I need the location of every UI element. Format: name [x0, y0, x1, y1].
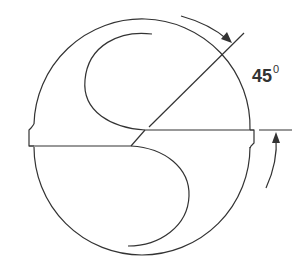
angle-label: 450 [252, 66, 279, 87]
degree-superscript: 0 [273, 63, 279, 75]
right-land-notch [250, 130, 254, 148]
left-land-notch [29, 124, 34, 146]
angle-value: 45 [252, 66, 272, 86]
lower-angle-arrow-arc [266, 137, 276, 188]
outer-circle-lower-arc [34, 147, 250, 255]
lower-arrowhead-icon [272, 132, 280, 143]
upper-angle-arrow-arc [181, 16, 228, 40]
upper-arrowhead-icon [221, 32, 232, 43]
upper-flute-curve [85, 33, 152, 130]
lower-flute-curve [128, 146, 189, 246]
outer-circle-upper-arc [34, 19, 250, 130]
drill-cross-section-diagram [0, 0, 307, 258]
chisel-edge [131, 130, 145, 146]
angle-reference-line [149, 33, 244, 127]
